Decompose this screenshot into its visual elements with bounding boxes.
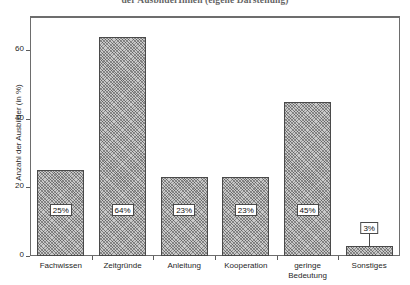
bar-value-label-3: 23% (235, 204, 257, 216)
x-tick-mark (153, 256, 154, 260)
x-tick-mark (92, 256, 93, 260)
y-tick: 20 (0, 187, 30, 188)
y-tick: 0 (0, 256, 30, 257)
y-tick-label: 20 (15, 181, 24, 190)
x-category-label-4: geringeBedeutung (288, 261, 327, 280)
bar-value-label-5: 3% (360, 222, 378, 234)
y-tick-mark (26, 256, 30, 257)
bar-5[interactable] (346, 246, 393, 256)
bar-4[interactable] (284, 102, 331, 256)
x-tick-mark (215, 256, 216, 260)
y-tick: 40 (0, 119, 30, 120)
bar-chart: Anzahl der Ausbilder (in %) 0204060 Fach… (0, 0, 410, 285)
x-category-label-line: Fachwissen (40, 261, 82, 270)
x-category-label-3: Kooperation (224, 261, 267, 271)
bars-area (30, 16, 400, 256)
x-tick-mark (338, 256, 339, 260)
x-category-label-line: Sonstiges (352, 261, 387, 270)
x-category-label-1: Zeitgründe (103, 261, 141, 271)
x-category-label-line: Zeitgründe (103, 261, 141, 270)
y-tick-label: 0 (20, 250, 24, 259)
y-tick-label: 40 (15, 113, 24, 122)
bar-value-label-1: 64% (111, 204, 133, 216)
bar-1[interactable] (99, 37, 146, 256)
x-category-label-0: Fachwissen (40, 261, 82, 271)
x-category-label-line: Anleitung (167, 261, 200, 270)
x-category-label-line: Kooperation (224, 261, 267, 270)
bar-2[interactable] (161, 177, 208, 256)
y-tick-label: 60 (15, 44, 24, 53)
x-category-label-line: geringe (294, 261, 321, 270)
bar-value-label-0: 25% (50, 204, 72, 216)
x-category-label-5: Sonstiges (352, 261, 387, 271)
value-callout-line (369, 233, 370, 246)
bar-3[interactable] (222, 177, 269, 256)
x-category-label-line: Bedeutung (288, 271, 327, 281)
y-tick: 60 (0, 50, 30, 51)
x-tick-mark (277, 256, 278, 260)
bar-value-label-4: 45% (296, 204, 318, 216)
x-category-label-2: Anleitung (167, 261, 200, 271)
bar-value-label-2: 23% (173, 204, 195, 216)
